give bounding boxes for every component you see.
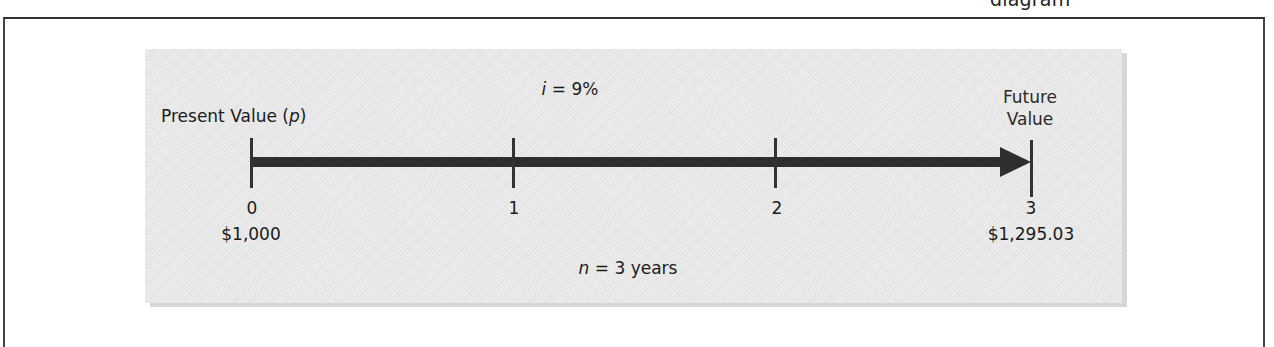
future-value-line1: Future (1003, 86, 1057, 108)
duration-value: = 3 years (589, 258, 677, 278)
timeline-arrowhead-icon (1000, 147, 1031, 177)
period-label-2: 2 (772, 198, 783, 218)
duration-label: n = 3 years (579, 258, 678, 278)
period-label-3: 3 (1026, 198, 1037, 218)
timeline-arrow-shaft (251, 157, 1007, 167)
tick-period-2 (774, 138, 777, 188)
future-value-line2: Value (1003, 108, 1057, 130)
present-value-variable: p (289, 106, 300, 126)
present-value-paren: ) (300, 106, 307, 126)
future-value-amount: $1,295.03 (988, 224, 1075, 244)
present-value-amount: $1,000 (221, 224, 280, 244)
duration-variable: n (579, 258, 590, 278)
tick-period-1 (512, 138, 515, 188)
tick-period-0 (250, 138, 253, 188)
interest-rate-value: = 9% (546, 79, 598, 99)
period-label-0: 0 (247, 198, 258, 218)
present-value-label: Present Value (p) (161, 106, 306, 126)
present-value-text: Present Value ( (161, 106, 289, 126)
tick-period-3 (1030, 140, 1033, 197)
period-label-1: 1 (509, 198, 520, 218)
figure-caption-clipped: diagram (990, 0, 1070, 10)
future-value-label: Future Value (1003, 86, 1057, 130)
interest-rate-label: i = 9% (542, 79, 599, 99)
